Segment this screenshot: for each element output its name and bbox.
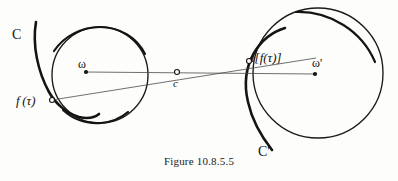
- figure-caption: Figure 10.8.5.5: [0, 155, 398, 167]
- figure-page: C C' f (τ) i[f(τ)] ω ω' c Figure 10.8.5.…: [0, 0, 398, 181]
- label-inversion-center-c: c: [173, 78, 178, 89]
- circle-omega: [52, 27, 148, 123]
- figure-canvas: [0, 0, 398, 181]
- point-marker-f-tau: [50, 98, 55, 103]
- circle-omega-prime: [253, 8, 383, 138]
- curve-C-prime: [246, 28, 285, 150]
- label-point-i-f-tau: i[f(τ)]: [251, 51, 282, 64]
- label-circle-center-omega: ω: [78, 58, 86, 70]
- point-marker-c: [175, 70, 180, 75]
- label-circle-center-omega-prime: ω': [312, 57, 322, 69]
- center-dot-omega-prime: [313, 72, 317, 76]
- label-curve-C: C: [12, 28, 21, 42]
- circle-omega-prime-heavy-arc: [296, 12, 375, 62]
- label-point-f-tau: f (τ): [16, 94, 36, 107]
- axis-line: [86, 72, 315, 74]
- circle-omega-heavy-arc: [54, 27, 145, 54]
